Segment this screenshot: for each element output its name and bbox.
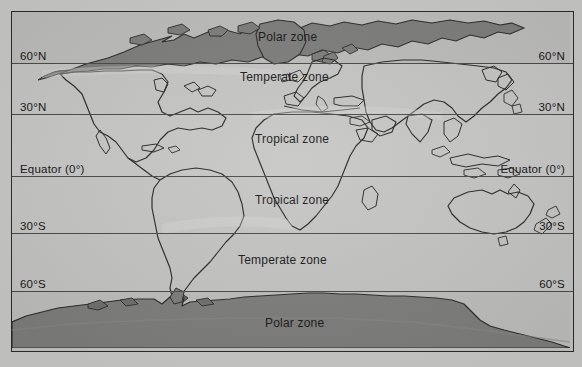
map-frame: 60°N 30°N Equator (0°) 30°S 60°S 60°N 30…	[11, 11, 574, 352]
latitude-line-equator	[12, 176, 573, 177]
latitude-label-equator-left: Equator (0°)	[20, 163, 85, 175]
latitude-label-30n-left: 30°N	[20, 101, 47, 113]
latitude-label-60n-left: 60°N	[20, 50, 47, 62]
latitude-line-30n	[12, 114, 573, 115]
latitude-label-30s-right: 30°S	[539, 220, 565, 232]
latitude-line-60n	[12, 63, 573, 64]
zone-label-temperate-south: Temperate zone	[238, 253, 327, 267]
latitude-line-30s	[12, 233, 573, 234]
latitude-label-60s-left: 60°S	[20, 278, 46, 290]
scanned-page: 60°N 30°N Equator (0°) 30°S 60°S 60°N 30…	[0, 0, 582, 367]
latitude-label-60n-right: 60°N	[539, 50, 566, 62]
latitude-line-60s	[12, 291, 573, 292]
latitude-label-30n-right: 30°N	[539, 101, 566, 113]
latitude-label-30s-left: 30°S	[20, 220, 46, 232]
latitude-label-60s-right: 60°S	[539, 278, 565, 290]
zone-label-polar-north: Polar zone	[258, 30, 317, 44]
zone-label-tropical-north: Tropical zone	[255, 132, 329, 146]
latitude-label-equator-right: Equator (0°)	[500, 163, 565, 175]
zone-label-tropical-south: Tropical zone	[255, 193, 329, 207]
zone-label-polar-south: Polar zone	[265, 316, 324, 330]
zone-label-temperate-north: Temperate zone	[240, 70, 329, 84]
